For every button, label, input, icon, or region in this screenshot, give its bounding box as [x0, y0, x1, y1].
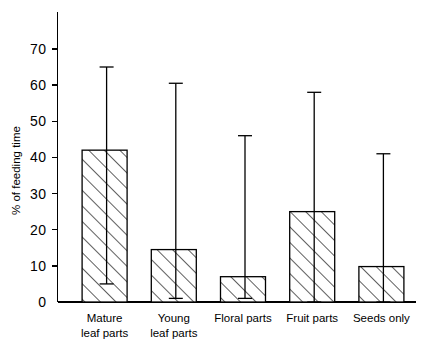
y-axis-title: % of feeding time: [10, 126, 22, 215]
bar-chart-figure: 010203040506070 % of feeding time Mature…: [0, 0, 425, 354]
y-tick-label: 10: [30, 258, 47, 274]
category-label-1: leaf parts: [150, 327, 198, 339]
y-tick-group: 010203040506070: [30, 41, 58, 310]
chart-canvas: 010203040506070 % of feeding time Mature…: [0, 0, 425, 354]
bar-4: [359, 267, 404, 302]
y-tick-label: 70: [30, 41, 47, 57]
category-label-4: Seeds only: [353, 312, 410, 324]
y-tick-label: 60: [30, 77, 47, 93]
bar-3: [290, 212, 335, 302]
category-label-1: Young: [158, 312, 190, 324]
y-axis: 010203040506070 % of feeding time: [10, 12, 58, 310]
y-tick-label: 50: [30, 113, 47, 129]
category-label-group: Matureleaf partsYoungleaf partsFloral pa…: [81, 312, 410, 339]
category-label-0: Mature: [87, 312, 123, 324]
bar-1: [151, 250, 196, 302]
y-tick-label: 40: [30, 149, 47, 165]
bar-0: [82, 150, 127, 302]
category-label-2: Floral parts: [214, 312, 272, 324]
bars-group: [82, 67, 404, 302]
category-label-0: leaf parts: [81, 327, 129, 339]
y-tick-label: 30: [30, 186, 47, 202]
y-tick-label: 20: [30, 222, 47, 238]
x-axis: Matureleaf partsYoungleaf partsFloral pa…: [58, 302, 417, 339]
category-label-3: Fruit parts: [286, 312, 338, 324]
y-tick-label: 0: [38, 294, 46, 310]
